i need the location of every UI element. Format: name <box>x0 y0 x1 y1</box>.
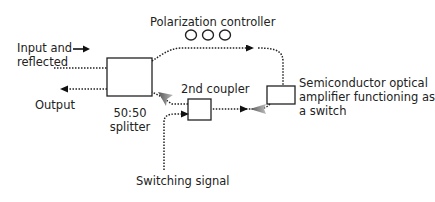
polarization-controller-label: Polarization controller <box>150 15 275 29</box>
soa-label-line1: Semiconductor optical <box>299 76 428 90</box>
input-direction-arrow <box>73 46 90 53</box>
output-label: Output <box>35 98 75 112</box>
soa-label-line2: amplifier functioning as <box>299 90 435 104</box>
switching-signal-label: Switching signal <box>136 174 229 188</box>
loop-fiber-down <box>258 48 283 86</box>
switching-signal-fiber <box>164 114 182 170</box>
soa-label-line3: a switch <box>299 104 346 118</box>
gray-arrow-soa <box>250 104 266 114</box>
input-label-line2: reflected <box>17 55 68 69</box>
splitter-label-line2: splitter <box>104 120 156 134</box>
second-coupler-label: 2nd coupler <box>181 82 250 96</box>
soa-box <box>267 86 295 104</box>
black-arrow-coupler-right <box>240 106 248 113</box>
input-label-line1: Input and <box>17 41 72 55</box>
second-coupler-box <box>188 99 211 120</box>
polarization-controller-loops <box>186 30 231 40</box>
splitter-box <box>107 58 152 96</box>
loop-fiber-top <box>152 48 252 61</box>
splitter-label-line1: 50:50 <box>106 106 154 120</box>
gray-arrow-splitter <box>158 92 173 106</box>
